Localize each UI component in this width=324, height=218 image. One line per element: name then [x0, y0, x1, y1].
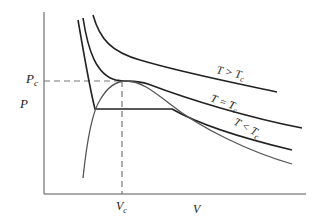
label-above-critical: T > Tc: [215, 63, 246, 84]
y-axis-label: P: [19, 96, 28, 111]
vc-label: Vc: [116, 199, 127, 215]
coexistence-curve: [83, 81, 292, 178]
label-critical: T = Tc: [208, 92, 240, 116]
pv-diagram: Pc P Vc V T > Tc T = Tc T < Tc: [0, 0, 324, 218]
pv-diagram-svg: Pc P Vc V T > Tc T = Tc T < Tc: [0, 0, 324, 218]
isotherm-below-critical: [78, 20, 292, 150]
pc-label: Pc: [25, 71, 38, 88]
x-axis-label: V: [193, 202, 202, 216]
